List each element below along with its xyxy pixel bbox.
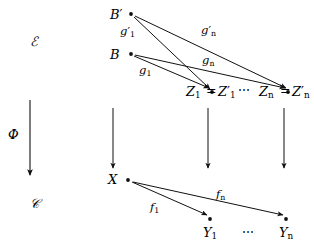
object-subscript: n <box>268 90 274 100</box>
morphism-subscript: 1 <box>130 30 135 39</box>
morphism-subscript: n <box>220 193 225 202</box>
object-letter: Z <box>218 84 227 99</box>
object-letter: Z <box>292 84 301 99</box>
object-letter: Y <box>279 225 288 240</box>
dot-Y1 <box>208 217 212 221</box>
category-diagram: ℰ 𝒞 Φ B′ B Z1 = Z′1 ⋯ Zn = Z′n X Y1 ⋯ Yn… <box>0 0 314 250</box>
equals-sign-Zn: = <box>280 85 290 98</box>
morphism-label-g1-prime: g′1 <box>120 26 135 39</box>
object-label-X: X <box>108 173 117 186</box>
object-label-Z1: Z1 <box>186 85 201 100</box>
morphism-label-gn-prime: g′n <box>201 25 216 38</box>
object-label-B: B <box>110 48 120 61</box>
object-subscript: 1 <box>212 231 218 241</box>
object-subscript: n <box>304 90 310 100</box>
object-letter: X <box>108 172 117 187</box>
object-label-Zn: Zn <box>259 85 274 100</box>
prime-mark: ′ <box>120 7 123 22</box>
dot-B <box>129 52 133 56</box>
object-label-Y1: Y1 <box>203 226 217 241</box>
morphism-label-f1: f1 <box>150 202 159 215</box>
morphism-subscript: n <box>211 29 216 38</box>
object-subscript: 1 <box>195 90 201 100</box>
arrow-g1-prime <box>134 17 210 89</box>
object-letter: Z <box>186 84 195 99</box>
dot-X <box>126 178 130 182</box>
category-label-C: 𝒞 <box>30 197 39 210</box>
object-label-B-prime: B′ <box>110 8 123 21</box>
dot-Yn <box>284 217 288 221</box>
object-label-Yn: Yn <box>279 226 293 241</box>
object-subscript: n <box>288 231 294 241</box>
arrow-f1 <box>132 182 207 215</box>
object-subscript: 1 <box>230 90 236 100</box>
morphism-subscript: n <box>209 59 214 68</box>
object-label-Zn-prime: Z′n <box>292 85 310 100</box>
ellipsis-z-row: ⋯ <box>238 84 252 96</box>
morphism-subscript: 1 <box>146 69 151 78</box>
morphism-subscript: 1 <box>154 206 159 215</box>
morphism-label-g1: g1 <box>139 65 151 78</box>
object-letter: Z <box>259 84 268 99</box>
object-letter: B <box>110 7 120 22</box>
ellipsis-y-row: ⋯ <box>242 226 256 238</box>
object-label-Z1-prime: Z′1 <box>218 85 236 100</box>
morphism-label-gn: gn <box>202 55 214 68</box>
functor-label-phi: Φ <box>8 128 19 141</box>
equals-sign-Z1: = <box>206 85 216 98</box>
morphism-label-fn: fn <box>216 189 225 202</box>
dot-B-prime <box>129 12 133 16</box>
object-letter: Y <box>203 225 212 240</box>
category-label-E: ℰ <box>30 35 38 48</box>
object-letter: B <box>110 47 120 62</box>
